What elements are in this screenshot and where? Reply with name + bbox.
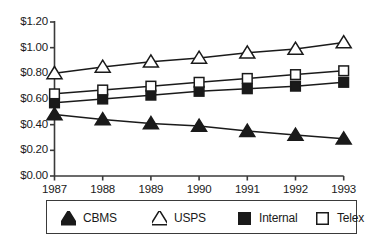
data-series-group: [47, 36, 351, 144]
datapoint-internal-1989: [146, 90, 156, 100]
datapoint-telex-1988: [98, 85, 108, 95]
datapoint-telex-1990: [194, 77, 204, 87]
datapoint-internal-1991: [242, 84, 252, 94]
legend-item-telex[interactable]: Telex: [315, 201, 364, 235]
datapoint-internal-1992: [291, 81, 301, 91]
datapoint-telex-1992: [291, 70, 301, 80]
datapoint-internal-1987: [50, 98, 60, 108]
legend-label-usps: USPS: [174, 211, 206, 225]
filled-square-icon: [237, 211, 252, 226]
chart-container: $1.20$1.00$0.80$0.60$0.40$0.20$0.00 1987…: [0, 0, 373, 245]
open-triangle-icon: [152, 211, 167, 226]
datapoint-telex-1991: [242, 74, 252, 84]
series-markers-usps: [47, 36, 351, 79]
legend-item-cbms[interactable]: CBMS: [61, 201, 117, 235]
datapoint-internal-1988: [98, 94, 108, 104]
filled-triangle-icon: [61, 211, 76, 226]
legend-item-internal[interactable]: Internal: [237, 201, 297, 235]
legend-label-cbms: CBMS: [83, 211, 117, 225]
datapoint-internal-1990: [194, 86, 204, 96]
legend-label-internal: Internal: [259, 211, 297, 225]
datapoint-telex-1989: [146, 81, 156, 91]
datapoint-telex-1987: [50, 89, 60, 99]
datapoint-internal-1993: [339, 77, 349, 87]
legend-label-telex: Telex: [337, 211, 364, 225]
open-square-icon: [315, 211, 330, 226]
chart-legend: CBMSUSPSInternalTelex: [46, 200, 357, 234]
series-markers-cbms: [47, 108, 351, 145]
legend-item-usps[interactable]: USPS: [152, 201, 206, 235]
datapoint-telex-1993: [339, 66, 349, 76]
datapoint-usps-1993: [336, 36, 351, 48]
axes: [50, 21, 344, 181]
datapoint-cbms-1987: [47, 108, 62, 120]
